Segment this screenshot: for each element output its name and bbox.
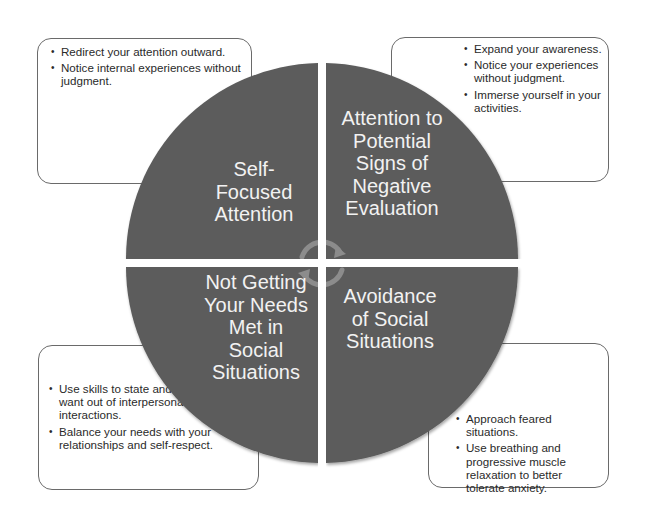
label-text: Self- Focused Attention: [215, 158, 294, 225]
label-text: Attention to Potential Signs of Negative…: [341, 107, 442, 219]
quadrant-label-not-getting-needs-met: Not Getting Your Needs Met in Social Sit…: [194, 271, 318, 384]
label-text: Avoidance of Social Situations: [343, 285, 436, 352]
quadrant-wheel: [0, 0, 649, 520]
quadrant-label-avoidance: Avoidance of Social Situations: [332, 285, 448, 353]
label-text: Not Getting Your Needs Met in Social Sit…: [204, 271, 308, 383]
quadrant-label-self-focused-attention: Self- Focused Attention: [196, 158, 312, 226]
quadrant-label-attention-to-negative-evaluation: Attention to Potential Signs of Negative…: [329, 107, 455, 220]
